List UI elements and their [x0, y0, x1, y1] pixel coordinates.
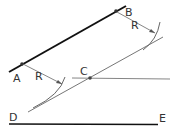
arrowhead-a — [56, 80, 62, 84]
point-c — [88, 76, 92, 80]
label-b: B — [125, 6, 133, 19]
line-ab — [9, 6, 126, 72]
label-e: E — [159, 112, 166, 125]
label-c: C — [80, 65, 88, 78]
geometric-construction-diagram: A B R R C D E — [0, 0, 174, 133]
label-r2: R — [131, 19, 139, 32]
line-de — [9, 124, 158, 125]
horizontal-line-c — [72, 78, 170, 79]
arc-b — [143, 22, 160, 50]
label-a: A — [13, 72, 21, 85]
arrowhead-b — [149, 29, 155, 33]
label-r1: R — [35, 70, 43, 83]
parallel-line — [28, 37, 163, 112]
label-d: D — [9, 111, 17, 124]
